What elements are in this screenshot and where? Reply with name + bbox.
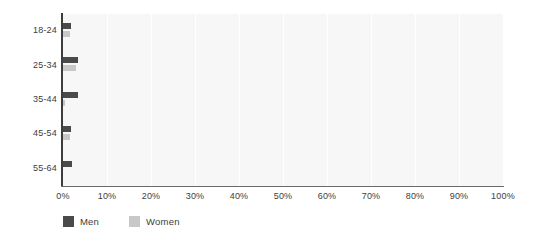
bar-group	[63, 14, 503, 48]
bar-group	[63, 83, 503, 117]
x-tick-label-40%: 40%	[230, 191, 249, 201]
bar-chart: 18-2425-3435-4445-5455-64 0%10%20%30%40%…	[0, 0, 540, 237]
plot-area	[63, 14, 503, 186]
legend-label: Men	[80, 216, 99, 227]
bar-women-25-34	[63, 65, 76, 71]
legend-swatch-icon	[63, 216, 74, 227]
x-tick-label-70%: 70%	[362, 191, 381, 201]
y-tick-label-55-64: 55-64	[9, 163, 57, 173]
bar-group	[63, 117, 503, 151]
y-tick-label-25-34: 25-34	[9, 60, 57, 70]
x-tick-label-0%: 0%	[56, 191, 69, 201]
bar-men-35-44	[63, 92, 78, 98]
bar-women-18-24	[63, 31, 70, 37]
x-tick-label-10%: 10%	[98, 191, 117, 201]
x-tick-label-100%: 100%	[491, 191, 515, 201]
legend-item-men[interactable]: Men	[63, 216, 99, 227]
x-tick-label-60%: 60%	[318, 191, 337, 201]
bar-group	[63, 48, 503, 82]
y-tick-label-45-54: 45-54	[9, 128, 57, 138]
bar-group	[63, 152, 503, 186]
y-tick-label-18-24: 18-24	[9, 25, 57, 35]
chart-legend: MenWomen	[63, 216, 180, 227]
legend-item-women[interactable]: Women	[129, 216, 180, 227]
x-axis-line	[61, 186, 504, 187]
bar-women-35-44	[63, 100, 65, 106]
bar-men-55-64	[63, 161, 72, 167]
y-tick-label-35-44: 35-44	[9, 94, 57, 104]
x-tick-label-80%: 80%	[406, 191, 425, 201]
bar-men-25-34	[63, 57, 78, 63]
y-axis-line	[61, 13, 63, 187]
bar-men-45-54	[63, 126, 71, 132]
x-tick-label-20%: 20%	[142, 191, 161, 201]
gridline	[503, 14, 504, 186]
x-tick-label-50%: 50%	[274, 191, 293, 201]
bar-women-45-54	[63, 134, 70, 140]
x-tick-label-30%: 30%	[186, 191, 205, 201]
legend-swatch-icon	[129, 216, 140, 227]
legend-label: Women	[146, 216, 180, 227]
bar-men-18-24	[63, 23, 71, 29]
x-tick-label-90%: 90%	[450, 191, 469, 201]
y-axis-tick-labels: 18-2425-3435-4445-5455-64	[7, 14, 57, 186]
